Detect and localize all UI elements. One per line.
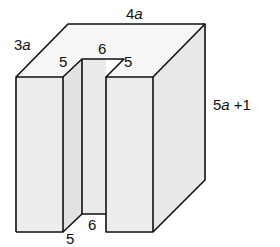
slot-left-wall [63, 59, 82, 232]
label-slot-bottom-depth: 5 [66, 230, 74, 247]
slot-back-wall [82, 59, 106, 214]
front-right-face [106, 77, 153, 232]
label-slot-top-depth-right: 5 [124, 53, 132, 70]
front-left-face [16, 77, 63, 232]
prism-diagram: 4a 3a 5 6 5 5a +1 5 6 [0, 0, 280, 247]
label-slot-top-width: 6 [98, 40, 106, 57]
label-slot-top-depth-left: 5 [59, 53, 67, 70]
label-height: 5a +1 [213, 96, 251, 113]
label-top-length: 4a [126, 5, 143, 22]
label-depth: 3a [14, 36, 31, 53]
label-slot-bottom-width: 6 [88, 216, 96, 233]
